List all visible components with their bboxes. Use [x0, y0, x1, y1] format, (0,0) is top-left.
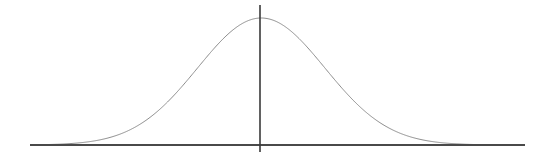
chart-background [0, 0, 545, 162]
bell-curve-figure [0, 0, 545, 162]
normal-distribution-chart [0, 0, 545, 162]
